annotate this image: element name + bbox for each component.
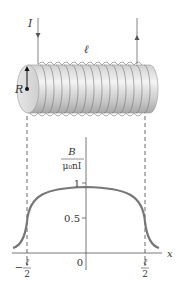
current-out-arrow-icon [135,35,140,40]
solenoid-cylinder [28,65,158,113]
radius-label: R [14,83,23,96]
x-tick-label-neg-half-l: − ℓ 2 [15,257,31,279]
current-label: I [27,17,33,30]
solenoid: R [14,62,158,116]
svg-text:ℓ: ℓ [25,257,29,267]
y-axis-label: B μ₀nI [61,146,84,171]
x-tick-label-0: 0 [77,257,83,268]
length-label: ℓ [84,43,89,56]
svg-text:ℓ: ℓ [143,257,147,267]
x-axis-label: x [167,248,173,259]
y-label-denominator: μ₀nI [63,161,82,171]
y-tick-label-0.5: 0.5 [64,213,80,224]
center-dot [25,87,29,91]
y-label-numerator: B [67,146,75,157]
svg-text:2: 2 [142,269,148,279]
x-tick-label-pos-half-l: ℓ 2 [141,257,149,279]
svg-text:2: 2 [24,269,30,279]
solenoid-field-diagram: R I ℓ B μ₀nI 1 0.5 x 0 − ℓ 2 ℓ 2 [0,0,181,291]
current-in-arrow-icon [36,33,41,38]
svg-text:−: − [15,262,23,273]
current-leads: I ℓ [27,17,140,64]
